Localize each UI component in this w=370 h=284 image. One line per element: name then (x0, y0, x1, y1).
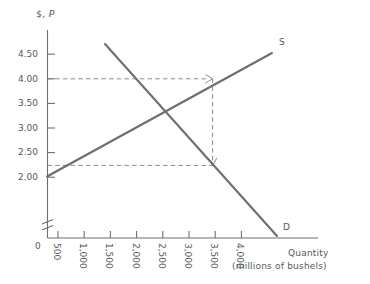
y-axis-title-variable: P (49, 8, 55, 19)
demand-curve-label: D (283, 222, 290, 232)
chart-canvas (0, 0, 370, 284)
y-axis-title-currency: $, (36, 8, 49, 19)
x-axis-ticks (58, 231, 241, 238)
demand-curve (105, 44, 277, 236)
supply-demand-chart: $, P 4.50 4.00 3.50 3.00 2.50 2.00 0 500… (0, 0, 370, 284)
quantity-drop-annotation (208, 79, 216, 166)
y-tick-label-250: 2.50 (8, 147, 38, 157)
y-axis-title: $, P (36, 8, 55, 19)
x-tick-label-500: 500 (52, 243, 62, 260)
origin-label: 0 (35, 241, 41, 251)
y-tick-label-300: 3.00 (8, 123, 38, 133)
x-tick-label-3500: 3,500 (209, 243, 219, 269)
y-tick-label-350: 3.50 (8, 98, 38, 108)
x-tick-label-2000: 2,000 (131, 243, 141, 269)
x-tick-label-3000: 3,000 (183, 243, 193, 269)
price-ceiling-annotation (48, 75, 213, 83)
x-axis-title-line1: Quantity (288, 248, 329, 258)
x-tick-label-2500: 2,500 (157, 243, 167, 269)
supply-curve (47, 53, 272, 177)
supply-curve-label: S (279, 37, 285, 47)
y-axis-ticks (48, 54, 56, 177)
x-tick-label-1000: 1,000 (78, 243, 88, 269)
x-axis-title-line2: (millions of bushels) (232, 261, 327, 271)
y-tick-label-450: 4.50 (8, 49, 38, 59)
x-tick-label-1500: 1,500 (104, 243, 114, 269)
y-tick-label-400: 4.00 (8, 74, 38, 84)
y-tick-label-200: 2.00 (8, 172, 38, 182)
